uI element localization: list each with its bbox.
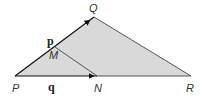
label-point-q: Q: [89, 2, 98, 14]
label-vector-p: p: [47, 34, 54, 48]
label-point-m: M: [49, 49, 59, 61]
triangle-diagram: Q P N R M p q: [0, 0, 201, 101]
label-point-p: P: [12, 82, 20, 94]
label-vector-q: q: [48, 80, 55, 94]
label-point-r: R: [186, 82, 194, 94]
label-point-n: N: [94, 82, 102, 94]
triangle-pqr-shading: [15, 17, 191, 76]
